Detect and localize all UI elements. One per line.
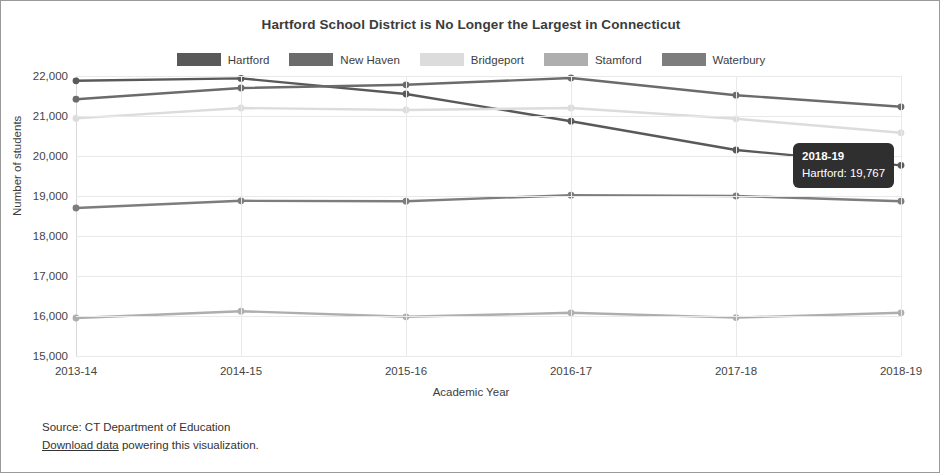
gridline-horizontal <box>76 156 901 157</box>
download-line: Download data powering this visualizatio… <box>42 437 602 455</box>
source-text: Source: CT Department of Education <box>42 419 602 437</box>
gridline-horizontal <box>76 196 901 197</box>
legend-item-bridgeport[interactable]: Bridgeport <box>420 53 524 66</box>
gridline-horizontal <box>76 276 901 277</box>
data-point-new-haven[interactable] <box>73 96 80 103</box>
legend-item-hartford[interactable]: Hartford <box>177 53 270 66</box>
x-axis-tick: 2016-17 <box>550 365 592 377</box>
download-suffix: powering this visualization. <box>119 439 259 451</box>
y-axis-label: Number of students <box>11 116 23 216</box>
legend-label: Waterbury <box>713 54 766 66</box>
y-axis-tick: 20,000 <box>33 150 68 162</box>
y-axis-tick: 21,000 <box>33 110 68 122</box>
x-axis-tick: 2013-14 <box>55 365 97 377</box>
gridline-horizontal <box>76 356 901 357</box>
legend-swatch-icon <box>544 53 588 66</box>
plot-area: 15,00016,00017,00018,00019,00020,00021,0… <box>76 76 901 356</box>
gridline-vertical <box>901 76 902 356</box>
y-axis-tick: 15,000 <box>33 350 68 362</box>
chart-title: Hartford School District is No Longer th… <box>1 17 940 32</box>
legend-item-stamford[interactable]: Stamford <box>544 53 642 66</box>
y-axis-tick: 22,000 <box>33 70 68 82</box>
legend-swatch-icon <box>177 53 221 66</box>
data-point-hartford[interactable] <box>73 77 80 84</box>
gridline-horizontal <box>76 316 901 317</box>
chart-container: Hartford School District is No Longer th… <box>0 0 940 473</box>
gridline-vertical <box>241 76 242 356</box>
gridline-horizontal <box>76 116 901 117</box>
legend-swatch-icon <box>289 53 333 66</box>
legend-swatch-icon <box>662 53 706 66</box>
download-data-link[interactable]: Download data <box>42 439 119 451</box>
gridline-vertical <box>406 76 407 356</box>
y-axis-tick: 18,000 <box>33 230 68 242</box>
y-axis-tick: 17,000 <box>33 270 68 282</box>
legend-label: Bridgeport <box>471 54 524 66</box>
legend-label: New Haven <box>340 54 399 66</box>
data-tooltip: 2018-19 Hartford: 19,767 <box>793 143 894 188</box>
x-axis-tick: 2015-16 <box>385 365 427 377</box>
x-axis-label: Academic Year <box>1 386 940 398</box>
tooltip-value: Hartford: 19,767 <box>802 165 885 182</box>
tooltip-title: 2018-19 <box>802 148 885 165</box>
x-axis-tick: 2014-15 <box>220 365 262 377</box>
legend-item-waterbury[interactable]: Waterbury <box>662 53 766 66</box>
series-line-waterbury <box>76 195 901 208</box>
y-axis-tick: 19,000 <box>33 190 68 202</box>
legend-label: Hartford <box>228 54 270 66</box>
series-line-bridgeport <box>76 108 901 133</box>
y-axis-tick: 16,000 <box>33 310 68 322</box>
gridline-horizontal <box>76 236 901 237</box>
gridline-horizontal <box>76 76 901 77</box>
gridline-vertical <box>736 76 737 356</box>
x-axis-tick: 2018-19 <box>880 365 922 377</box>
legend-swatch-icon <box>420 53 464 66</box>
legend-item-new-haven[interactable]: New Haven <box>289 53 399 66</box>
chart-legend: HartfordNew HavenBridgeportStamfordWater… <box>1 53 940 66</box>
legend-label: Stamford <box>595 54 642 66</box>
chart-footer: Source: CT Department of Education Downl… <box>42 419 602 455</box>
data-point-waterbury[interactable] <box>73 205 80 212</box>
gridline-vertical <box>571 76 572 356</box>
series-line-new-haven <box>76 78 901 107</box>
x-axis-tick: 2017-18 <box>715 365 757 377</box>
series-layer <box>76 76 901 356</box>
